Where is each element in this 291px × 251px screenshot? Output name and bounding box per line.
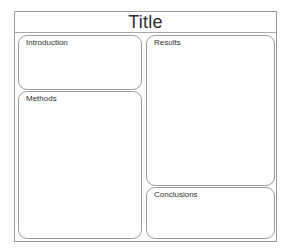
panel-conclusions-body[interactable] xyxy=(154,202,268,234)
panel-introduction-body[interactable] xyxy=(26,50,135,85)
panel-methods[interactable]: Methods xyxy=(18,91,142,239)
poster-body-area: Introduction Methods Results Conclusions xyxy=(15,33,276,241)
poster-frame: Title Introduction Methods Results xyxy=(14,11,277,242)
poster-title-bar: Title xyxy=(15,12,276,33)
panel-methods-label: Methods xyxy=(26,94,57,104)
poster-title[interactable]: Title xyxy=(128,13,162,32)
panel-introduction-label: Introduction xyxy=(26,38,68,48)
poster-column-right: Results Conclusions xyxy=(145,33,276,241)
panel-methods-body[interactable] xyxy=(26,106,135,234)
panel-results-body[interactable] xyxy=(154,50,268,181)
panel-introduction[interactable]: Introduction xyxy=(18,35,142,90)
poster-root: Title Introduction Methods Results xyxy=(0,0,291,251)
poster-column-left: Introduction Methods xyxy=(17,33,143,241)
panel-results-label: Results xyxy=(154,38,181,48)
panel-conclusions-label: Conclusions xyxy=(154,190,198,200)
panel-conclusions[interactable]: Conclusions xyxy=(146,187,275,239)
panel-results[interactable]: Results xyxy=(146,35,275,186)
